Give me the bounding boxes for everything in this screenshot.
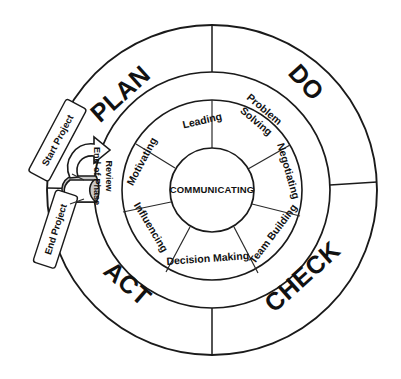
diagram-canvas: PLAN DO CHECK ACT Leading Problem Solvin… bbox=[0, 0, 401, 379]
review-arrow-label-line1: End-of-Phase bbox=[92, 147, 102, 205]
hub-label: COMMUNICATING bbox=[170, 184, 255, 195]
hub-group: COMMUNICATING bbox=[170, 148, 255, 232]
pdca-wheel-diagram: PLAN DO CHECK ACT Leading Problem Solvin… bbox=[0, 0, 401, 379]
review-arrow-label-line2: Review bbox=[104, 160, 114, 192]
